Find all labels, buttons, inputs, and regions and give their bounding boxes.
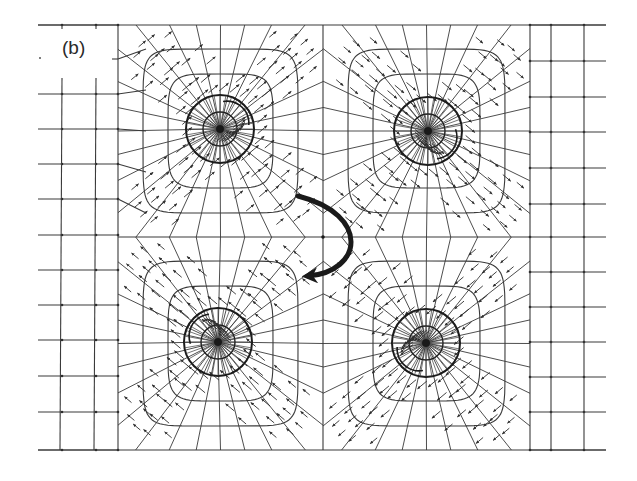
displacement-arrow [503, 83, 511, 89]
displacement-arrow [175, 378, 184, 386]
displacement-arrow [262, 399, 271, 406]
displacement-arrow [303, 389, 310, 395]
radial-spoke [402, 237, 425, 339]
mesh-diagram [0, 0, 637, 481]
grid-node [529, 341, 532, 344]
displacement-arrow [165, 32, 172, 38]
displacement-arrow [163, 274, 171, 281]
displacement-arrow [170, 370, 179, 378]
displacement-arrow [147, 63, 155, 69]
displacement-arrow [161, 172, 169, 179]
radial-spoke [118, 82, 216, 128]
displacement-arrow [192, 287, 201, 295]
grid-node [529, 167, 532, 170]
displacement-arrow [256, 353, 265, 361]
displacement-arrow [270, 186, 278, 193]
displacement-arrow [353, 41, 360, 47]
radial-spoke [136, 345, 216, 450]
displacement-arrow [300, 261, 307, 267]
displacement-arrow [281, 170, 289, 177]
displacement-arrow [388, 391, 397, 399]
displacement-arrow [145, 81, 153, 87]
radial-spoke [169, 346, 216, 450]
radial-spoke [221, 345, 323, 426]
displacement-arrow [152, 290, 160, 297]
displacement-arrow [293, 216, 300, 222]
grid-node [61, 449, 64, 452]
displacement-arrow [368, 281, 377, 288]
displacement-arrow [418, 381, 427, 389]
displacement-arrow [269, 61, 277, 68]
displacement-arrow [375, 210, 383, 216]
grid-node [529, 306, 532, 309]
displacement-arrow [330, 403, 337, 409]
displacement-arrow [336, 80, 343, 86]
vortex-core-bottom-right [392, 309, 460, 377]
displacement-arrow [272, 288, 280, 295]
displacement-arrow [468, 406, 476, 413]
displacement-arrow [302, 209, 309, 215]
displacement-arrow [380, 386, 389, 394]
displacement-arrow [133, 424, 140, 430]
displacement-arrow [460, 309, 469, 317]
grid-node [529, 449, 532, 452]
grid-node [117, 24, 120, 27]
displacement-arrow [139, 41, 146, 47]
center-node [321, 235, 325, 239]
displacement-arrow [418, 168, 427, 176]
radial-spoke [118, 49, 217, 126]
displacement-arrow [134, 202, 141, 208]
displacement-arrow [276, 219, 283, 225]
displacement-arrow [362, 55, 370, 61]
displacement-arrow [267, 417, 275, 423]
displacement-arrow [329, 292, 336, 298]
displacement-arrow [379, 339, 388, 347]
displacement-arrow [173, 295, 182, 303]
displacement-arrow [246, 205, 254, 211]
displacement-arrow [376, 69, 384, 76]
displacement-arrow [356, 222, 363, 228]
displacement-arrow [350, 87, 358, 93]
displacement-arrow [508, 417, 515, 423]
displacement-arrow [274, 304, 283, 311]
displacement-arrow [383, 99, 392, 107]
vortex-core-top-left [186, 95, 254, 163]
displacement-arrow [176, 106, 185, 114]
displacement-arrow [258, 115, 267, 123]
displacement-arrow [268, 279, 276, 286]
displacement-arrow [480, 390, 488, 397]
displacement-arrow [156, 280, 164, 287]
displacement-arrow [283, 91, 291, 98]
displacement-arrow [379, 277, 387, 284]
core-center-dot [424, 127, 432, 135]
displacement-arrow [253, 301, 262, 309]
displacement-arrow [263, 155, 272, 163]
grid-node [117, 269, 120, 272]
displacement-arrow [495, 295, 503, 301]
displacement-arrow [470, 163, 479, 171]
displacement-arrow [374, 311, 383, 319]
displacement-arrow [355, 315, 363, 322]
displacement-arrow [510, 284, 517, 290]
displacement-arrow [493, 434, 500, 440]
displacement-arrow [494, 405, 502, 411]
displacement-arrow [463, 146, 472, 154]
grid-node [529, 96, 532, 99]
stray-dot [39, 57, 41, 59]
radial-spoke [432, 132, 530, 155]
displacement-arrow [270, 432, 277, 438]
displacement-arrow [441, 198, 449, 205]
displacement-arrow [377, 225, 384, 231]
displacement-arrow [262, 89, 271, 97]
displacement-arrow [132, 184, 139, 190]
displacement-arrow [508, 45, 515, 51]
displacement-arrow [287, 429, 294, 435]
displacement-arrow [483, 74, 491, 81]
displacement-arrow [165, 181, 173, 188]
displacement-arrow [276, 67, 285, 74]
displacement-arrow [264, 257, 272, 263]
displacement-arrow [138, 385, 146, 391]
displacement-arrow [152, 385, 160, 392]
feeder-line [118, 90, 146, 94]
displacement-arrow [464, 65, 473, 72]
